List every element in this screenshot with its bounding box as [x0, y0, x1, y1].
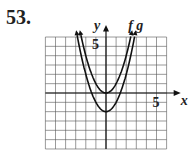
x-axis-label: x — [180, 93, 188, 108]
y-axis-label: y — [92, 18, 101, 33]
x-tick-5: 5 — [152, 95, 159, 110]
curve-label-g: g — [135, 18, 143, 33]
curve-label-f: f — [128, 18, 134, 33]
x-axis-arrow-icon — [174, 90, 181, 96]
parabola-graph: yxfg55 — [0, 0, 192, 167]
y-axis-arrow-icon — [103, 25, 109, 32]
curve-arrow-icon — [75, 30, 80, 35]
y-tick-5: 5 — [92, 37, 99, 52]
curve-arrow-icon — [78, 30, 83, 35]
